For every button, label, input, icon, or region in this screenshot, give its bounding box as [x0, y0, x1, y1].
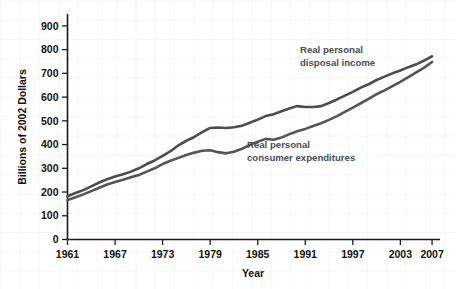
- x-tick-label: 1961: [56, 248, 80, 260]
- x-tick-label: 1985: [246, 248, 270, 260]
- y-tick-label: 100: [41, 209, 59, 221]
- x-tick-label: 2007: [420, 248, 444, 260]
- y-tick-label: 0: [53, 233, 59, 245]
- y-tick-label: 700: [41, 67, 59, 79]
- x-tick-label: 1973: [151, 248, 175, 260]
- y-tick-label: 200: [41, 186, 59, 198]
- series-line-disposal-income: [68, 56, 433, 196]
- series-annotation-consumer-expenditures: Real personalconsumer expenditures: [247, 139, 355, 163]
- line-chart: 0100200300400500600700800900 19611967197…: [0, 0, 456, 289]
- x-axis-ticks: 196119671973197919851991199720032007: [56, 240, 444, 260]
- y-tick-label: 400: [41, 138, 59, 150]
- data-series-layer: [68, 56, 433, 200]
- y-tick-label: 500: [41, 115, 59, 127]
- chart-container: 0100200300400500600700800900 19611967197…: [0, 0, 456, 289]
- x-tick-label: 2003: [389, 248, 413, 260]
- x-tick-label: 1967: [103, 248, 127, 260]
- x-tick-label: 1991: [294, 248, 318, 260]
- y-tick-label: 800: [41, 43, 59, 55]
- x-tick-label: 1997: [341, 248, 365, 260]
- y-tick-label: 300: [41, 162, 59, 174]
- series-line-consumer-expenditures: [68, 62, 433, 200]
- series-annotation-disposal-income: Real personaldisposal income: [300, 44, 375, 68]
- y-axis-title: Billions of 2002 Dollars: [16, 69, 28, 185]
- x-axis-title: Year: [242, 267, 264, 279]
- series-annotations: Real personaldisposal incomeReal persona…: [247, 44, 375, 163]
- y-tick-label: 600: [41, 91, 59, 103]
- y-tick-label: 900: [41, 20, 59, 32]
- y-axis-ticks: 0100200300400500600700800900: [41, 20, 68, 246]
- x-tick-label: 1979: [198, 248, 222, 260]
